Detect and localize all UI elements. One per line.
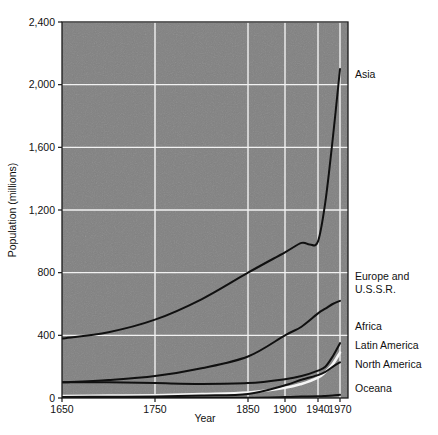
x-tick-label: 1650	[50, 403, 74, 415]
series-label-africa: Africa	[355, 320, 382, 332]
x-axis-title: Year	[194, 412, 216, 424]
series-label-europe-and-u-s-s-r: U.S.S.R.	[355, 283, 396, 295]
y-axis-title: Population (millions)	[6, 163, 18, 258]
series-label-north-america: North America	[355, 358, 422, 370]
series-label-oceana: Oceana	[355, 382, 392, 394]
y-tick-label: 1,200	[29, 204, 55, 216]
x-tick-label: 1850	[236, 403, 260, 415]
x-tick-label: 1940	[306, 403, 330, 415]
series-label-europe-and-u-s-s-r: Europe and	[355, 270, 409, 282]
x-tick-label: 1750	[143, 403, 167, 415]
x-tick-label: 1970	[328, 403, 352, 415]
x-tick-label: 1900	[273, 403, 297, 415]
chart-figure: 04008001,2001,6002,0002,400 165017501850…	[0, 0, 438, 435]
series-label-latin-america: Latin America	[355, 339, 419, 351]
series-label-asia: Asia	[355, 68, 376, 80]
population-line-chart: 04008001,2001,6002,0002,400 165017501850…	[0, 0, 438, 435]
y-tick-label: 2,000	[29, 78, 55, 90]
y-tick-label: 1,600	[29, 141, 55, 153]
y-tick-label: 400	[37, 329, 55, 341]
y-tick-label: 2,400	[29, 16, 55, 28]
y-tick-label: 800	[37, 266, 55, 278]
y-tick-label: 0	[49, 392, 55, 404]
